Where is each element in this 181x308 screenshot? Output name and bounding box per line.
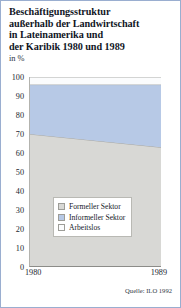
y-tick-100: 100 bbox=[12, 73, 24, 82]
legend-swatch-icon bbox=[58, 214, 65, 221]
y-tick-10: 10 bbox=[16, 244, 24, 253]
y-tick-30: 30 bbox=[16, 206, 24, 215]
legend-swatch-icon bbox=[58, 203, 65, 210]
chart-subtitle: in % bbox=[9, 54, 175, 64]
legend-item-formeller-sektor: Formeller Sektor bbox=[58, 202, 125, 212]
legend-label: Arbeitslos bbox=[69, 223, 100, 232]
legend-item-arbeitslos: Arbeitslos bbox=[58, 223, 125, 233]
y-tick-0: 0 bbox=[20, 263, 24, 272]
y-axis: 0102030405060708090100 bbox=[1, 77, 27, 267]
title-block: Beschäftigungsstruktur außerhalb der Lan… bbox=[9, 6, 175, 64]
source-note: Quelle: ILO 1992 bbox=[125, 287, 172, 294]
plot-area bbox=[29, 77, 161, 267]
y-tick-50: 50 bbox=[16, 168, 24, 177]
y-tick-70: 70 bbox=[16, 130, 24, 139]
y-tick-90: 90 bbox=[16, 92, 24, 101]
area-arbeitslos bbox=[29, 77, 161, 85]
legend-item-informeller-sektor: Informeller Sektor bbox=[58, 212, 125, 222]
y-tick-20: 20 bbox=[16, 225, 24, 234]
legend-label: Informeller Sektor bbox=[69, 213, 125, 222]
stacked-area-series bbox=[29, 77, 161, 267]
x-axis: 1980 1989 bbox=[25, 268, 167, 280]
page-title: Beschäftigungsstruktur außerhalb der Lan… bbox=[9, 6, 175, 52]
y-tick-40: 40 bbox=[16, 187, 24, 196]
y-tick-80: 80 bbox=[16, 111, 24, 120]
chart-legend: Formeller SektorInformeller SektorArbeit… bbox=[53, 197, 132, 237]
x-tick-1989: 1989 bbox=[151, 268, 167, 277]
x-tick-1980: 1980 bbox=[25, 268, 41, 277]
area-chart-svg bbox=[29, 77, 161, 267]
chart-figure: Beschäftigungsstruktur außerhalb der Lan… bbox=[0, 0, 181, 308]
legend-label: Formeller Sektor bbox=[69, 202, 121, 211]
legend-swatch-icon bbox=[58, 224, 65, 231]
y-tick-60: 60 bbox=[16, 149, 24, 158]
